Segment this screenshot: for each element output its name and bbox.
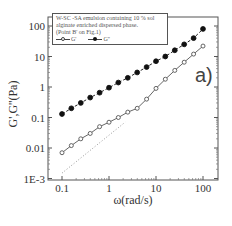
g-double-prime-point — [78, 101, 83, 106]
g-double-prime-point — [144, 65, 149, 70]
g-double-prime-point — [172, 48, 177, 53]
legend-description-line-2: alginate enriched dispersed phase. — [56, 22, 164, 29]
g-prime-point — [182, 60, 186, 64]
y-tick-label: 100 — [29, 20, 46, 32]
g-prime-point — [98, 125, 102, 129]
filled-circle-marker-icon — [88, 39, 102, 40]
legend-label-g-double-prime: G'' — [103, 36, 110, 43]
axis-ticks: 0.11101001E-30.010.1110100 — [24, 20, 218, 194]
legend: W-SC -SA emulsion containing 10 % sol al… — [52, 13, 168, 45]
g-double-prime-point — [125, 75, 130, 80]
g-prime-point — [60, 151, 64, 155]
x-axis-label: ω(rad/s) — [113, 193, 152, 207]
y-axis-label: G',G''(Pa) — [6, 81, 20, 128]
y-tick-label: 1 — [40, 81, 46, 93]
g-double-prime-point — [60, 112, 65, 117]
g-prime-point — [107, 120, 111, 124]
g-prime-point — [79, 137, 83, 141]
g-prime-point — [145, 97, 149, 101]
g-double-prime-point — [201, 27, 206, 32]
g-prime-point — [173, 68, 177, 72]
g-prime-point — [154, 86, 158, 90]
x-tick-label: 1 — [106, 182, 112, 194]
legend-label-g-prime: G' — [71, 36, 76, 43]
x-tick-label: 0.1 — [55, 182, 69, 194]
legend-entry-g-prime: G' — [56, 36, 76, 43]
g-double-prime-point — [107, 85, 112, 90]
y-tick-label: 1E-3 — [24, 173, 46, 185]
g-double-prime-point — [69, 106, 74, 111]
legend-description-line-1: W-SC -SA emulsion containing 10 % sol — [56, 15, 164, 22]
g-prime-point — [192, 52, 196, 56]
legend-entries: G' G'' — [56, 36, 164, 43]
g-double-prime-point — [163, 54, 168, 59]
panel-label: a) — [195, 64, 213, 86]
legend-entry-g-double-prime: G'' — [88, 36, 110, 43]
g-prime-point — [135, 106, 139, 110]
x-tick-label: 100 — [195, 182, 212, 194]
g-double-prime-point — [191, 36, 196, 41]
g-double-prime-point — [182, 42, 187, 47]
g-double-prime-point — [135, 70, 140, 75]
g-prime-point — [69, 144, 73, 148]
g-prime-point — [116, 116, 120, 120]
g-double-prime-point — [97, 90, 102, 95]
legend-description-line-3: (Point B' on Fig.1) — [56, 29, 164, 36]
g-prime-point — [163, 77, 167, 81]
data-series — [60, 27, 206, 155]
g-prime-point — [201, 44, 205, 48]
g-double-prime-point — [154, 59, 159, 64]
y-tick-label: 0.01 — [26, 142, 45, 154]
open-circle-marker-icon — [56, 39, 70, 40]
g-double-prime-point — [116, 80, 121, 85]
g-prime-point — [88, 131, 92, 135]
y-tick-label: 10 — [34, 51, 46, 63]
g-prime-point — [126, 110, 130, 114]
g-double-prime-point — [88, 95, 93, 100]
y-tick-label: 0.1 — [31, 112, 45, 124]
